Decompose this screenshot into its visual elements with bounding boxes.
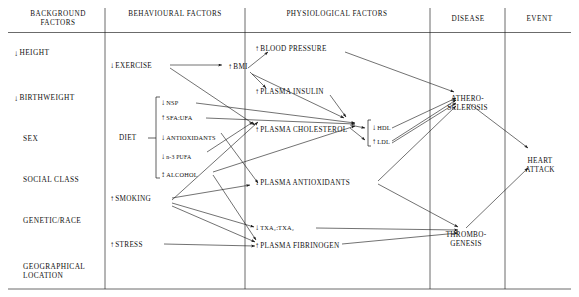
up-arrow-icon: ↑ (255, 87, 259, 96)
header-behavioural: BEHAVIOURAL FACTORS (115, 10, 235, 19)
node-n3-pufa: ↓n-3 PUFA (161, 152, 191, 161)
node-antioxidants: ↓ANTIOXIDANTS (161, 133, 216, 142)
node-alcohol: ↕ALCOHOL (161, 170, 198, 179)
up-arrow-icon: ↑ (228, 62, 232, 71)
node-nsp: ↓NSP (161, 98, 178, 107)
node-thrombogenesis: THROMBO- GENESIS (437, 222, 495, 249)
node-smoking: ↑SMOKING (110, 194, 151, 203)
node-blood-pressure: ↑BLOOD PRESSURE (255, 44, 327, 53)
node-exercise: ↓EXERCISE (110, 61, 152, 70)
up-arrow-icon: ↑ (161, 113, 165, 122)
node-stress: ↑STRESS (110, 240, 143, 249)
down-arrow-icon: ↓ (14, 94, 18, 103)
node-atherosclerosis: ATHERO- SCLEROSIS (440, 86, 495, 113)
node-geographical-location: GEOGRAPHICAL LOCATION (23, 252, 85, 281)
up-arrow-icon: ↑ (255, 44, 259, 53)
down-arrow-icon: ↓ (255, 223, 259, 232)
diagram-canvas: BACKGROUND FACTORS BEHAVIOURAL FACTORS P… (0, 0, 579, 297)
header-event: EVENT (512, 15, 567, 24)
down-arrow-icon: ↓ (255, 178, 259, 187)
node-genetic-race: GENETIC/RACE (23, 216, 81, 225)
up-arrow-icon: ↑ (110, 240, 114, 249)
node-social-class: SOCIAL CLASS (23, 175, 79, 184)
node-hdl: ↓HDL (372, 123, 391, 132)
node-ldl: ↑LDL (372, 137, 390, 146)
header-background: BACKGROUND FACTORS (18, 10, 98, 28)
up-arrow-icon: ↑ (372, 137, 376, 146)
node-heart-attack: HEART ATTACK (515, 148, 565, 175)
down-arrow-icon: ↓ (161, 98, 165, 107)
node-bmi: ↑BMI (228, 62, 248, 71)
node-sex: SEX (23, 134, 38, 143)
up-arrow-icon: ↑ (255, 241, 259, 250)
header-disease: DISEASE (437, 15, 499, 24)
node-plasma-antioxidants: ↓PLASMA ANTIOXIDANTS (255, 178, 350, 187)
up-down-arrow-icon: ↕ (161, 170, 165, 179)
up-arrow-icon: ↑ (110, 194, 114, 203)
down-arrow-icon: ↓ (161, 152, 165, 161)
down-arrow-icon: ↓ (372, 123, 376, 132)
node-plasma-insulin: ↑PLASMA INSULIN (255, 87, 324, 96)
node-birthweight: ↓BIRTHWEIGHT (14, 93, 75, 103)
node-diet: DIET (119, 134, 137, 142)
node-plasma-cholesterol: ↑PLASMA CHOLESTEROL (255, 125, 347, 134)
node-sfa-ufa: ↑SFA:UFA (161, 113, 193, 122)
header-physiological: PHYSIOLOGICAL FACTORS (272, 10, 402, 19)
node-plasma-fibrinogen: ↑PLASMA FIBRINOGEN (255, 241, 340, 250)
down-arrow-icon: ↓ (161, 133, 165, 142)
node-txa-ratio: ↓TXA₂:TXA₂ (255, 223, 294, 232)
down-arrow-icon: ↓ (110, 61, 114, 70)
node-height: ↓HEIGHT (14, 48, 49, 58)
down-arrow-icon: ↓ (14, 49, 18, 58)
up-arrow-icon: ↑ (255, 125, 259, 134)
